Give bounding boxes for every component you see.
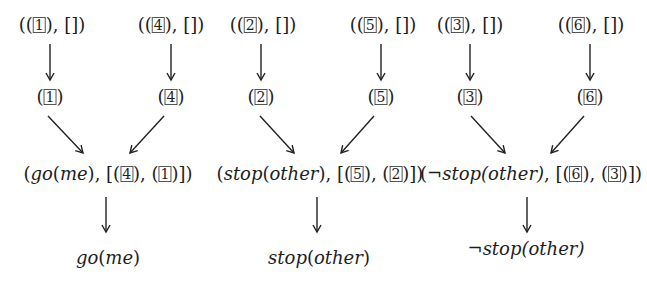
boxed-number: 6 [572,17,585,33]
input-node-1: ((1), []) [19,14,86,36]
argument: other [488,163,537,184]
mid-node-3: (3) [457,86,484,108]
boxed-number: 4 [152,17,165,33]
boxed-number: 1 [33,17,46,33]
predicate: go [76,247,98,268]
empty-list: [] [275,14,289,35]
mid-node-5: (5) [368,86,395,108]
boxed-number: 5 [351,166,364,182]
combined-node-stop-other: (stop(other), [(5), (2)]) [217,163,424,185]
predicate: stop [224,163,263,184]
combined-node-not-stop-other: (¬stop(other), [(6), (3)]) [420,163,642,185]
combined-node-go-me: (go(me), [(4), (1)]) [23,163,192,185]
predicate: stop [442,163,481,184]
arrow-diag-icon [130,116,164,153]
boxed-number: 3 [451,17,464,33]
mid-node-1: (1) [37,86,64,108]
boxed-number: 4 [165,89,178,105]
boxed-number: 5 [375,89,388,105]
argument: me [60,163,88,184]
empty-list: [] [64,14,78,35]
input-node-2: ((2), []) [230,14,297,36]
boxed-number: 6 [584,89,597,105]
boxed-number: 3 [464,89,477,105]
input-node-5: ((5), []) [350,14,417,36]
input-node-4: ((4), []) [138,14,205,36]
arrow-diag-icon [341,116,374,153]
arrow-diag-icon [48,116,83,153]
predicate: go [30,163,52,184]
argument: me [105,247,133,268]
input-node-6: ((6), []) [558,14,625,36]
mid-node-6: (6) [577,86,604,108]
argument: other [314,247,363,268]
boxed-number: 5 [364,17,377,33]
empty-list: [] [603,14,617,35]
boxed-number: 1 [44,89,57,105]
negation-symbol: ¬ [427,163,442,184]
arrow-diag-icon [260,116,294,153]
result-node-stop-other: stop(other) [268,247,370,269]
predicate: stop [268,247,307,268]
negation-symbol: ¬ [468,238,483,259]
input-node-3: ((3), []) [437,14,504,36]
empty-list: [] [395,14,409,35]
result-node-not-stop-other: ¬stop(other) [468,238,585,260]
boxed-number: 3 [608,166,621,182]
argument: other [529,238,578,259]
empty-list: [] [482,14,496,35]
boxed-number: 2 [255,89,268,105]
arrow-diag-icon [551,116,584,153]
boxed-number: 2 [244,17,257,33]
arrow-diag-icon [471,116,505,153]
predicate: stop [483,238,522,259]
boxed-number: 6 [570,166,583,182]
mid-node-2: (2) [248,86,275,108]
boxed-number: 2 [389,166,402,182]
boxed-number: 4 [120,166,133,182]
mid-node-4: (4) [158,86,185,108]
result-node-go-me: go(me) [76,247,140,269]
boxed-number: 1 [159,166,172,182]
argument: other [270,163,319,184]
empty-list: [] [183,14,197,35]
